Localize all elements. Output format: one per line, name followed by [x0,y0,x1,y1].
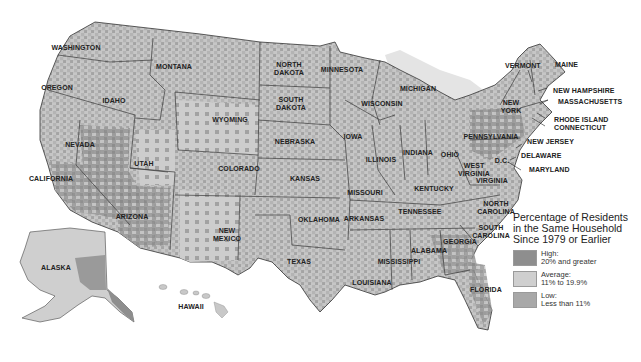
legend-range: 11% to 19.9% [541,279,587,287]
state-label-d-c: D.C. [495,157,509,165]
state-label-oregon: OREGON [41,84,73,92]
state-label-north-dakota: NORTHDAKOTA [274,61,304,77]
state-label-mississippi: MISSISSIPPI [378,258,421,266]
state-label-california: CALIFORNIA [29,175,73,183]
state-label-ohio: OHIO [441,151,459,159]
legend-item-average: Average: 11% to 19.9% [513,271,641,287]
state-label-massachusetts: MASSACHUSETTS [558,98,622,106]
state-label-west-virginia: WESTVIRGINIA [458,162,490,178]
state-label-virginia: VIRGINIA [476,177,508,185]
state-label-kansas: KANSAS [290,175,320,183]
legend-item-low: Low: Less than 11% [513,292,641,308]
state-label-wyoming: WYOMING [212,116,248,124]
state-label-rhode-island: RHODE ISLAND [554,116,608,124]
state-label-new-york: NEWYORK [501,99,522,115]
state-label-alaska: ALASKA [41,264,71,272]
state-label-south-dakota: SOUTHDAKOTA [276,96,306,112]
state-label-delaware: DELAWARE [521,152,561,160]
state-label-pennsylvania: PENNSYLVANIA [463,133,518,141]
state-label-new-jersey: NEW JERSEY [527,138,574,146]
state-label-washington: WASHINGTON [51,44,100,52]
state-label-arkansas: ARKANSAS [344,215,384,223]
state-label-missouri: MISSOURI [347,189,382,197]
legend-title-line: Since 1979 or Earlier [513,234,641,245]
state-label-maryland: MARYLAND [529,166,570,174]
state-label-utah: UTAH [134,160,153,168]
state-label-vermont: VERMONT [505,62,541,70]
state-label-connecticut: CONNECTICUT [554,124,606,132]
state-label-texas: TEXAS [287,258,311,266]
state-label-montana: MONTANA [156,63,192,71]
legend: Percentage of Residents in the Same Hous… [513,212,641,308]
state-label-michigan: MICHIGAN [400,85,436,93]
state-label-nebraska: NEBRASKA [275,138,315,146]
state-label-indiana: INDIANA [403,149,433,157]
legend-item-high: High: 20% and greater [513,250,641,266]
state-label-arizona: ARIZONA [116,213,149,221]
state-label-florida: FLORIDA [470,286,502,294]
state-label-colorado: COLORADO [218,165,260,173]
state-label-tennessee: TENNESSEE [398,208,441,216]
legend-range: Less than 11% [541,300,590,308]
state-label-hawaii: HAWAII [178,303,204,311]
state-label-nevada: NEVADA [65,141,95,149]
state-label-louisiana: LOUISIANA [352,279,391,287]
state-label-new-hampshire: NEW HAMPSHIRE [553,87,615,95]
legend-swatch-average [513,271,537,287]
state-label-illinois: ILLINOIS [366,156,396,164]
legend-title: Percentage of Residents in the Same Hous… [513,212,641,245]
legend-swatch-high [513,250,537,266]
state-label-south-carolina: SOUTHCAROLINA [472,224,510,240]
state-label-alabama: ALABAMA [411,247,447,255]
legend-swatch-low [513,292,537,308]
state-label-iowa: IOWA [343,133,362,141]
state-label-minnesota: MINNESOTA [321,66,363,74]
state-label-oklahoma: OKLAHOMA [298,216,340,224]
legend-range: 20% and greater [541,258,596,266]
state-label-kentucky: KENTUCKY [414,185,454,193]
state-label-new-mexico: NEWMEXICO [213,227,241,243]
state-label-idaho: IDAHO [102,97,125,105]
state-label-maine: MAINE [555,61,578,69]
state-label-north-carolina: NORTHCAROLINA [477,200,515,216]
hawaii [159,285,228,319]
state-label-wisconsin: WISCONSIN [361,100,402,108]
alaska [20,228,134,322]
